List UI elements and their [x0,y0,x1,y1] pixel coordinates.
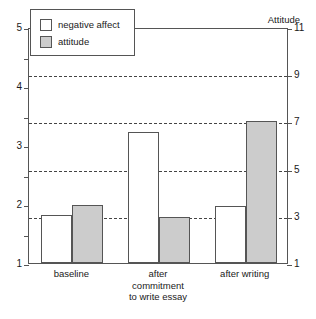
legend-swatch-gray-square [40,36,52,48]
tick-label-left: 3 [6,141,22,151]
axis-tick-left [24,88,29,89]
category-label: after writing [201,268,288,280]
bar-chart-figure: Negative Affect Attitude 543211197531 ne… [0,0,316,319]
tick-label-left: 4 [6,82,22,92]
axis-tick-left [24,177,29,178]
axis-tick-right [287,123,292,124]
axis-tick-left [24,29,29,30]
axis-tick-left [24,118,29,119]
tick-label-right: 11 [294,23,314,33]
tick-label-left: 1 [6,259,22,269]
chart-legend: negative affect attitude [30,9,135,56]
plot-area [28,28,288,264]
bar-negative-affect-after-writing [215,206,246,263]
axis-tick-right [287,265,292,266]
category-label: after commitment to write essay [115,268,202,303]
legend-item-attitude: attitude [40,33,134,50]
legend-label: attitude [58,36,89,47]
tick-label-right: 9 [294,70,314,80]
tick-label-right: 1 [294,259,314,269]
axis-tick-left [24,147,29,148]
axis-tick-left [24,59,29,60]
tick-label-right: 7 [294,117,314,127]
tick-label-right: 3 [294,212,314,222]
bar-attitude-baseline [72,205,103,263]
tick-label-left: 5 [6,23,22,33]
category-label: baseline [28,268,115,280]
legend-label: negative affect [58,19,120,30]
bar-negative-affect-after [128,132,159,263]
legend-swatch-white-square [40,19,52,31]
axis-tick-right [287,76,292,77]
axis-tick-left [24,265,29,266]
axis-tick-right [287,29,292,30]
gridline [29,76,287,77]
axis-tick-left [24,206,29,207]
tick-label-left: 2 [6,200,22,210]
bar-negative-affect-baseline [41,215,72,263]
bar-attitude-after [159,217,190,263]
bar-attitude-after-writing [246,121,277,263]
tick-label-right: 5 [294,165,314,175]
axis-tick-left [24,236,29,237]
legend-item-negative-affect: negative affect [40,16,134,33]
axis-tick-right [287,218,292,219]
axis-tick-right [287,171,292,172]
